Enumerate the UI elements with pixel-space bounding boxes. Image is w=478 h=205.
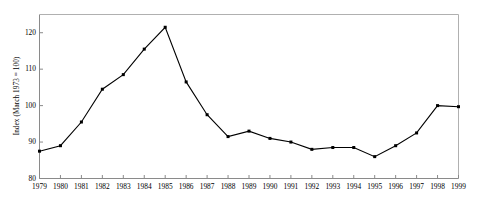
data-point-marker	[143, 48, 146, 51]
data-point-marker	[373, 155, 376, 158]
y-tick-label: 110	[14, 65, 36, 73]
data-point-marker	[80, 121, 83, 124]
y-tick-label: 90	[14, 138, 36, 146]
data-point-marker	[457, 105, 460, 108]
axis-frame	[40, 15, 459, 179]
data-point-marker	[206, 113, 209, 116]
data-point-marker	[164, 26, 167, 29]
data-series-line	[40, 27, 459, 156]
data-point-markers	[38, 26, 460, 158]
y-tick-label: 120	[14, 29, 36, 37]
line-chart: Index (March 1973 = 100) 8090100110120 1…	[0, 0, 478, 205]
data-point-marker	[185, 80, 188, 83]
axis-frame-outer	[40, 15, 459, 179]
data-point-marker	[59, 144, 62, 147]
data-point-marker	[122, 73, 125, 76]
data-point-marker	[436, 104, 439, 107]
data-point-marker	[227, 135, 230, 138]
data-point-marker	[248, 130, 251, 133]
x-tick-marks	[40, 175, 459, 179]
data-point-marker	[394, 144, 397, 147]
x-tick-label: 1999	[444, 182, 474, 191]
data-point-marker	[352, 146, 355, 149]
data-point-marker	[415, 131, 418, 134]
y-tick-label: 100	[14, 102, 36, 110]
data-point-marker	[38, 150, 41, 153]
y-axis-tick-labels: 8090100110120	[10, 0, 36, 205]
data-point-marker	[331, 146, 334, 149]
data-point-marker	[289, 141, 292, 144]
plot-area	[0, 0, 478, 205]
y-tick-marks	[40, 33, 44, 179]
data-point-marker	[310, 148, 313, 151]
data-point-marker	[268, 137, 271, 140]
data-point-marker	[101, 88, 104, 91]
